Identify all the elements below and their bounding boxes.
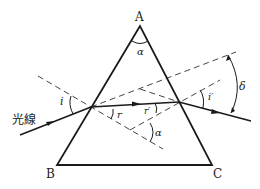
- arrow-icon-emergent: [211, 109, 220, 114]
- arc-i-prime: [200, 90, 204, 108]
- normal-line-exit: [130, 80, 220, 130]
- angle-label-i-prime: i′: [208, 91, 214, 102]
- vertex-label-a: A: [134, 10, 144, 24]
- arrow-icon-internal: [132, 102, 141, 107]
- arrow-icon-incident: [46, 121, 54, 126]
- arc-alpha-apex: [132, 41, 148, 44]
- arc-alpha-normals: [150, 123, 153, 142]
- prism-triangle: [57, 26, 212, 165]
- ray-label: 光線: [12, 112, 36, 127]
- arc-r: [111, 109, 113, 119]
- arc-r-prime: [155, 103, 157, 113]
- incident-ray-extension: [91, 52, 236, 107]
- arc-delta: [228, 55, 237, 113]
- angle-label-delta: δ: [239, 80, 246, 93]
- vertex-label-c: C: [213, 167, 222, 181]
- angle-label-r-prime: r′: [144, 106, 150, 116]
- angle-label-i: i: [60, 95, 64, 108]
- angle-label-alpha-normals: α: [155, 127, 162, 138]
- prism-diagram: A B C 光線 α i r r′ i′ α δ: [0, 0, 260, 189]
- angle-label-alpha-apex: α: [137, 46, 144, 57]
- angle-label-r: r: [117, 109, 123, 120]
- vertex-label-b: B: [46, 167, 55, 181]
- arc-i: [70, 96, 73, 114]
